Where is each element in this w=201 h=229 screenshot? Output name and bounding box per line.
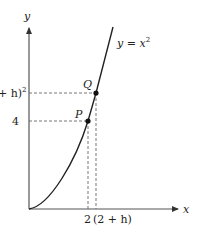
point-q	[93, 90, 98, 95]
point-p-label: P	[74, 108, 83, 121]
parabola-curve	[29, 27, 113, 209]
diagram-canvas: y x Q P y = x2 4 + h)2 2 (2 + h)	[0, 0, 201, 229]
y-axis-label: y	[23, 10, 31, 23]
guide-lines	[29, 93, 96, 209]
y-tick-label-2-plus-h-squared: + h)2	[0, 86, 27, 100]
y-tick-label-4: 4	[12, 115, 19, 128]
x-axis-label: x	[183, 203, 190, 216]
x-tick-label-2: 2	[84, 213, 91, 226]
x-tick-label-2-plus-h: (2 + h)	[93, 213, 132, 226]
point-q-label: Q	[83, 78, 92, 91]
point-p	[85, 118, 90, 123]
curve-equation-label: y = x2	[116, 36, 150, 50]
